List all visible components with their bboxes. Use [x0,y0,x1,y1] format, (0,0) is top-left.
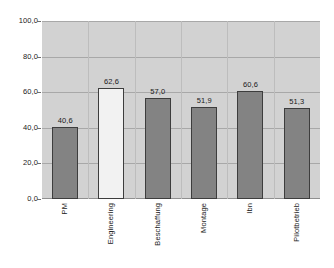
y-axis-tick-label: 0,0 [4,195,38,203]
plot-area: 40,662,657,051,960,651,3 [42,21,320,199]
y-axis-tick-label: 20,0 [4,159,38,167]
bar-slot: 60,6 [227,21,273,199]
x-axis-tick-label: Ibn [247,203,255,214]
bar-value-label: 40,6 [58,117,73,125]
bar [284,108,310,199]
y-axis-tick-mark [37,57,41,58]
y-axis-tick-mark [37,128,41,129]
bar-slot: 51,3 [274,21,320,199]
bar-slot: 62,6 [88,21,134,199]
bar-slot: 51,9 [181,21,227,199]
y-axis-tick-label: 80,0 [4,53,38,61]
bar-value-label: 57,0 [150,88,165,96]
y-axis-tick-label: 60,0 [4,88,38,96]
x-axis-category-labels: PMEngineeringBeschaffungMontageIbnPilotb… [42,203,320,265]
x-axis-tick-label: Pilotbetrieb [293,203,301,242]
x-axis-category: Montage [181,203,227,265]
bar [52,127,78,199]
x-axis-tick-label: PM [61,203,69,214]
bar-value-label: 51,9 [197,97,212,105]
bar-value-label: 62,6 [104,78,119,86]
x-axis-category: Engineering [88,203,134,265]
bar-slot: 40,6 [42,21,88,199]
bar [237,91,263,199]
y-axis-tick-label: 100,0 [4,17,38,25]
y-axis-tick-mark [37,92,41,93]
bar-value-label: 51,3 [289,98,304,106]
x-axis-category: Pilotbetrieb [274,203,320,265]
y-axis-tick-mark [37,21,41,22]
x-axis-tick-label: Engineering [108,203,116,244]
x-axis-category: PM [42,203,88,265]
bar-value-label: 60,6 [243,81,258,89]
x-axis-category: Ibn [227,203,273,265]
y-axis-tick-mark [37,199,41,200]
x-axis-tick-label: Montage [200,203,208,233]
bar [145,98,171,199]
x-axis-tick-label: Beschaffung [154,203,162,246]
y-axis-tick-label: 40,0 [4,124,38,132]
y-axis-tick-mark [37,163,41,164]
bar-chart: 100,080,060,040,020,00,0 40,662,657,051,… [0,0,334,268]
x-axis-category: Beschaffung [135,203,181,265]
bar [98,88,124,199]
y-axis: 100,080,060,040,020,00,0 [0,21,38,199]
bar [191,107,217,199]
bar-slot: 57,0 [135,21,181,199]
